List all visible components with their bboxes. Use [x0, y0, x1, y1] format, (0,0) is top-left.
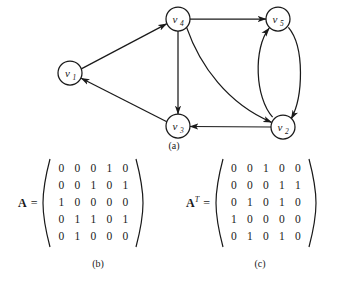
- graph-edges: [81, 19, 300, 127]
- matrix-at-cell: 1: [279, 180, 285, 192]
- matrix-a-cell: 0: [123, 197, 129, 209]
- matrix-a-cell: 0: [59, 214, 65, 226]
- graph-node-v5[interactable]: v 5: [266, 7, 290, 31]
- matrix-a-equals: =: [30, 196, 41, 211]
- graph-node-v3[interactable]: v 3: [166, 114, 190, 138]
- matrix-at-cell: 0: [231, 163, 237, 175]
- figure-root: v 1 v 2 v 3 v 4: [0, 0, 348, 283]
- matrix-at-cell: 0: [279, 214, 285, 226]
- node-label-v2: v: [278, 121, 283, 133]
- matrix-a-cell: 0: [107, 214, 113, 226]
- matrix-a-cell: 1: [75, 214, 81, 226]
- panel-b-caption: (b): [24, 258, 172, 269]
- edge-v5-to-v2: [288, 27, 300, 118]
- matrix-at-cell: 0: [279, 163, 285, 175]
- edge-v2-to-v5: [258, 28, 272, 117]
- matrix-at-cell: 0: [263, 180, 269, 192]
- node-subscript-v2: 2: [285, 127, 289, 136]
- matrix-at-cell: 0: [247, 163, 253, 175]
- matrix-at-cell: 0: [231, 180, 237, 192]
- matrix-at-cell: 0: [263, 214, 269, 226]
- matrix-at-cell: 0: [263, 231, 269, 243]
- matrix-at-name: AT: [186, 195, 200, 211]
- matrix-a-cell: 1: [123, 180, 129, 192]
- right-paren-icon: [308, 158, 317, 248]
- matrix-a-cell: 0: [91, 197, 97, 209]
- matrix-at-cell: 0: [263, 197, 269, 209]
- matrix-a-body: 0 0 0 1 0 0 0 1 0 1 1 0 0 0 0 0 1 1 0 1: [42, 158, 144, 248]
- matrix-at-cell: 0: [231, 197, 237, 209]
- matrix-a-cell: 0: [123, 163, 129, 175]
- matrix-a-cell: 0: [123, 231, 129, 243]
- matrix-at-cell: 1: [247, 231, 253, 243]
- matrix-a-cell: 0: [91, 163, 97, 175]
- node-subscript-v3: 3: [179, 126, 184, 135]
- matrix-at-equals: =: [202, 196, 213, 211]
- matrix-a-cell: 0: [75, 163, 81, 175]
- matrix-at-block: AT = 0 0 1 0 0 0 0 0 1 1 0 1 0: [186, 158, 317, 248]
- matrix-a-cell: 0: [75, 180, 81, 192]
- edge-v3-to-v1: [81, 78, 167, 122]
- matrix-at-cell: 1: [279, 231, 285, 243]
- matrix-at-cell: 1: [295, 180, 301, 192]
- graph-node-v4[interactable]: v 4: [166, 7, 190, 31]
- panel-a-caption: (a): [0, 140, 348, 151]
- left-paren-icon: [42, 158, 51, 248]
- matrix-a-cell: 1: [75, 231, 81, 243]
- graph-node-v2[interactable]: v 2: [271, 115, 295, 139]
- matrix-a-cell: 0: [107, 180, 113, 192]
- matrix-at-cell: 0: [295, 163, 301, 175]
- node-circle-v3[interactable]: [166, 114, 190, 138]
- node-circle-v2[interactable]: [271, 115, 295, 139]
- matrix-a-cell: 0: [107, 231, 113, 243]
- node-subscript-v4: 4: [180, 19, 184, 28]
- edge-v1-to-v4: [81, 24, 166, 69]
- matrix-at-cell: 0: [295, 197, 301, 209]
- matrix-at-cell: 1: [263, 163, 269, 175]
- node-label-v4: v: [173, 13, 178, 25]
- matrix-at-cell: 0: [247, 214, 253, 226]
- matrix-at-cell: 0: [295, 231, 301, 243]
- node-circle-v4[interactable]: [166, 7, 190, 31]
- matrix-a-cell: 0: [91, 231, 97, 243]
- node-label-v3: v: [173, 120, 178, 132]
- matrix-a-name: A: [18, 196, 28, 211]
- directed-graph-panel: v 1 v 2 v 3 v 4: [0, 0, 348, 152]
- matrix-at-grid: 0 0 1 0 0 0 0 0 1 1 0 1 0 1 0 1 0 0 0 0: [224, 158, 308, 248]
- right-paren-icon: [135, 158, 144, 248]
- directed-graph-svg: v 1 v 2 v 3 v 4: [0, 0, 348, 152]
- node-circle-v5[interactable]: [266, 7, 290, 31]
- matrix-at-cell: 0: [247, 180, 253, 192]
- node-subscript-v1: 1: [73, 73, 77, 82]
- matrix-at-superscript: T: [195, 195, 199, 204]
- matrix-at-cell: 0: [231, 231, 237, 243]
- edge-v2-to-v3: [190, 127, 271, 128]
- matrix-a-cell: 0: [59, 180, 65, 192]
- node-subscript-v5: 5: [280, 19, 284, 28]
- graph-nodes: v 1 v 2 v 3 v 4: [58, 7, 295, 139]
- matrix-a-cell: 1: [107, 163, 113, 175]
- node-circle-v1[interactable]: [58, 61, 82, 85]
- node-label-v1: v: [65, 67, 70, 79]
- matrix-at-cell: 1: [247, 197, 253, 209]
- node-label-v5: v: [273, 13, 278, 25]
- panel-c-caption: (c): [186, 258, 334, 269]
- matrix-a-cell: 0: [59, 231, 65, 243]
- left-paren-icon: [215, 158, 224, 248]
- matrix-a-cell: 0: [75, 197, 81, 209]
- matrix-a-cell: 1: [91, 180, 97, 192]
- matrix-at-cell: 1: [279, 197, 285, 209]
- matrix-a-cell: 1: [91, 214, 97, 226]
- matrix-at-body: 0 0 1 0 0 0 0 0 1 1 0 1 0 1 0 1 0 0 0 0: [215, 158, 317, 248]
- matrix-a-grid: 0 0 0 1 0 0 0 1 0 1 1 0 0 0 0 0 1 1 0 1: [51, 158, 135, 248]
- matrix-at-cell: 0: [295, 214, 301, 226]
- matrix-a-cell: 0: [59, 163, 65, 175]
- matrix-a-cell: 0: [107, 197, 113, 209]
- matrix-a-cell: 1: [123, 214, 129, 226]
- graph-node-v1[interactable]: v 1: [58, 61, 82, 85]
- matrix-a-block: A = 0 0 0 1 0 0 0 1 0 1 1 0 0: [18, 158, 144, 248]
- matrix-a-cell: 1: [59, 197, 65, 209]
- matrix-at-cell: 1: [231, 214, 237, 226]
